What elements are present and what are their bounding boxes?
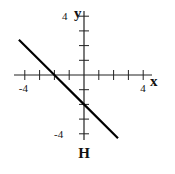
y-axis-label: y xyxy=(74,5,82,21)
x-tick-label-max: 4 xyxy=(140,82,146,94)
data-line xyxy=(19,40,118,139)
y-tick-label-min: -4 xyxy=(54,128,64,140)
graph-caption: H xyxy=(0,145,168,162)
x-tick-label-min: -4 xyxy=(19,82,29,94)
y-tick-label-max: 4 xyxy=(62,10,68,22)
x-axis-label: x xyxy=(150,73,158,89)
